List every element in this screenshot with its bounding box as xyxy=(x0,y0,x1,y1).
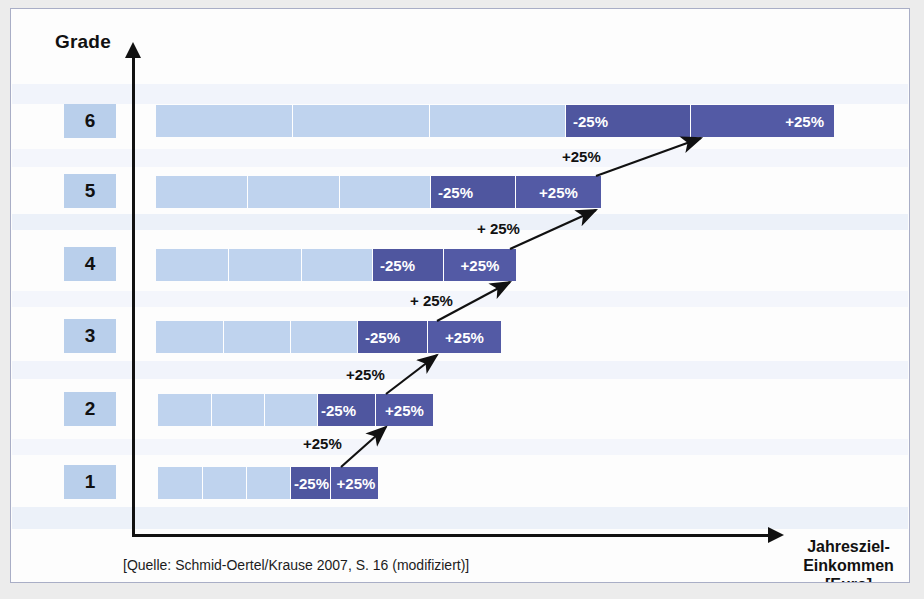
step-label-2-3: +25% xyxy=(346,366,385,383)
source-note: [Quelle: Schmid-Oertel/Krause 2007, S. 1… xyxy=(123,557,469,573)
x-axis-title-line-3: [Euro] xyxy=(786,575,910,583)
step-label-1-2: +25% xyxy=(303,435,342,452)
step-arrows xyxy=(11,9,909,582)
x-axis-title-line-1: Jahresziel- xyxy=(786,537,910,556)
step-label-4-5: + 25% xyxy=(477,220,520,237)
x-axis-title-line-2: Einkommen xyxy=(786,556,910,575)
step-label-5-6: +25% xyxy=(562,148,601,165)
step-label-3-4: + 25% xyxy=(410,292,453,309)
step-arrow-2-3 xyxy=(386,355,437,394)
step-arrow-1-2 xyxy=(341,427,386,467)
figure-frame: Grade 6 5 4 3 2 1 -25% +25% -25% +25% -2… xyxy=(10,8,910,583)
step-arrow-4-5 xyxy=(510,210,596,249)
step-arrow-5-6 xyxy=(596,138,701,176)
x-axis-title: Jahresziel- Einkommen [Euro] xyxy=(786,537,910,583)
